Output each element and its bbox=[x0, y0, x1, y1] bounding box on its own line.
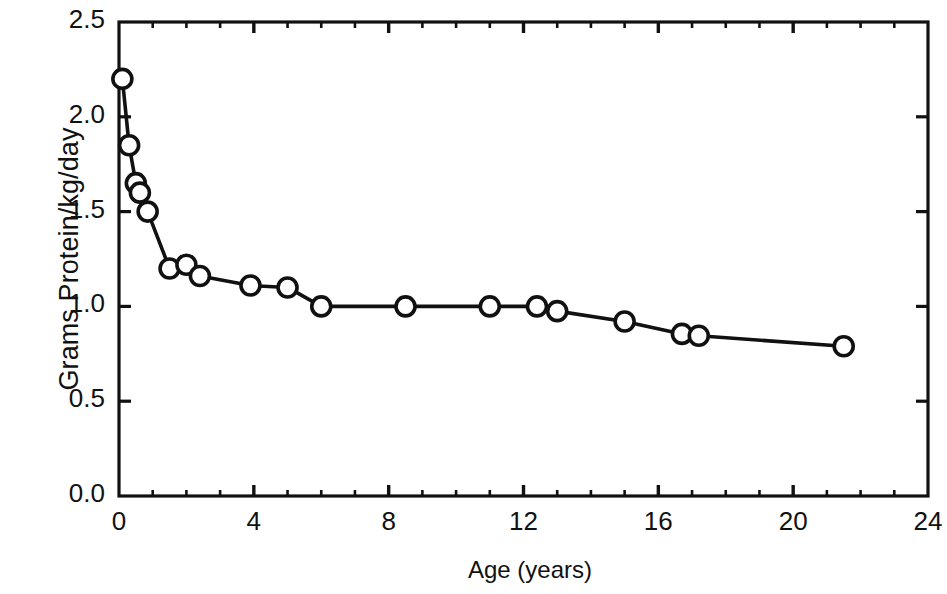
data-point-marker bbox=[548, 302, 567, 321]
data-point-marker bbox=[120, 136, 139, 155]
axis-ticks bbox=[119, 22, 928, 496]
data-point-marker bbox=[527, 297, 546, 316]
data-point-marker bbox=[130, 183, 149, 202]
data-point-marker bbox=[138, 202, 157, 221]
data-point-marker bbox=[689, 326, 708, 345]
data-point-marker bbox=[113, 69, 132, 88]
data-point-marker bbox=[278, 278, 297, 297]
data-point-marker bbox=[615, 312, 634, 331]
data-point-marker bbox=[834, 337, 853, 356]
data-point-marker bbox=[190, 267, 209, 286]
data-point-marker bbox=[480, 297, 499, 316]
data-point-marker bbox=[312, 297, 331, 316]
axis-frame bbox=[119, 22, 928, 496]
data-point-marker bbox=[241, 276, 260, 295]
data-point-marker bbox=[396, 297, 415, 316]
data-series-group bbox=[113, 69, 853, 355]
